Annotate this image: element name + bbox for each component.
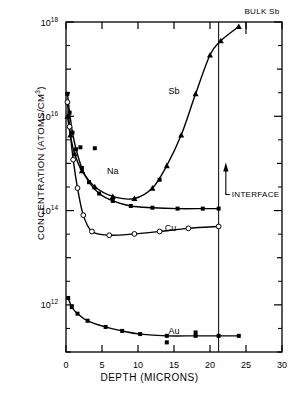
figure-root: 0510152025301018101610141012NaSbCuAuBULK… bbox=[0, 0, 299, 393]
data-point-au bbox=[194, 334, 198, 338]
x-tick-label-20: 20 bbox=[205, 360, 215, 370]
data-point-cu bbox=[216, 224, 221, 229]
data-point-cu bbox=[71, 157, 76, 162]
data-point-sb bbox=[207, 52, 213, 58]
data-point-na bbox=[201, 207, 205, 211]
data-point-au bbox=[66, 296, 70, 300]
series-label-sb: Sb bbox=[168, 86, 179, 96]
y-tick-label-1e12: 1012 bbox=[41, 298, 59, 310]
data-point-outlier-na bbox=[93, 146, 97, 150]
data-point-au bbox=[217, 334, 221, 338]
x-axis-title: DEPTH (MICRONS) bbox=[0, 372, 299, 383]
interface-label: INTERFACE bbox=[232, 190, 280, 199]
data-point-au bbox=[120, 329, 124, 333]
x-tick-label-25: 25 bbox=[241, 360, 251, 370]
data-point-sb bbox=[178, 132, 184, 138]
x-tick-label-15: 15 bbox=[169, 360, 179, 370]
data-point-au bbox=[76, 312, 80, 316]
interface-arrow-icon bbox=[223, 162, 228, 171]
data-point-au bbox=[237, 334, 241, 338]
data-point-au bbox=[138, 332, 142, 336]
y-axis-title-exponent: 3 bbox=[34, 90, 41, 94]
plot-frame bbox=[66, 22, 282, 352]
data-point-cu bbox=[132, 232, 137, 237]
x-tick-label-5: 5 bbox=[99, 360, 104, 370]
series-curve-sb bbox=[67, 27, 238, 199]
data-point-na bbox=[97, 192, 101, 196]
y-axis-title-text: CONCENTRATION (ATOMS/CM bbox=[35, 94, 46, 240]
data-point-au bbox=[104, 325, 108, 329]
data-point-sb bbox=[193, 91, 199, 97]
data-point-cu bbox=[157, 229, 162, 234]
y-axis-title-tail: ) bbox=[35, 86, 46, 90]
series-label-cu: Cu bbox=[165, 223, 177, 233]
data-point-na bbox=[129, 204, 133, 208]
data-point-cu bbox=[90, 229, 95, 234]
series-label-au: Au bbox=[168, 326, 179, 336]
data-point-cu bbox=[81, 213, 86, 218]
data-point-sb bbox=[164, 163, 170, 169]
series-label-na: Na bbox=[107, 166, 119, 176]
data-point-outlier-na bbox=[78, 145, 82, 149]
x-tick-label-30: 30 bbox=[277, 360, 287, 370]
series-curve-na bbox=[67, 94, 218, 209]
y-axis-title: CONCENTRATION (ATOMS/CM3) bbox=[34, 53, 46, 273]
data-point-na bbox=[111, 199, 115, 203]
data-point-sb bbox=[236, 24, 242, 30]
x-tick-label-10: 10 bbox=[133, 360, 143, 370]
data-point-outlier-au bbox=[165, 340, 169, 344]
data-point-na bbox=[65, 92, 69, 96]
interface-leader bbox=[226, 170, 230, 194]
data-point-cu bbox=[67, 124, 72, 129]
data-point-na bbox=[74, 147, 78, 151]
data-point-cu bbox=[107, 233, 112, 238]
data-point-cu bbox=[186, 226, 191, 231]
y-tick-label-1e18: 1018 bbox=[41, 16, 59, 28]
data-point-outlier-au bbox=[194, 330, 198, 334]
data-point-na bbox=[217, 207, 221, 211]
bulk-sb-label: BULK Sb bbox=[244, 7, 279, 16]
series-curve-au bbox=[68, 298, 239, 336]
data-point-na bbox=[176, 207, 180, 211]
data-point-au bbox=[86, 319, 90, 323]
x-tick-label-0: 0 bbox=[63, 360, 68, 370]
data-point-na bbox=[150, 206, 154, 210]
data-point-cu bbox=[65, 100, 70, 105]
series-curve-cu bbox=[67, 102, 218, 235]
data-point-sb bbox=[79, 168, 85, 174]
data-point-au bbox=[70, 305, 74, 309]
data-point-cu bbox=[75, 186, 80, 191]
